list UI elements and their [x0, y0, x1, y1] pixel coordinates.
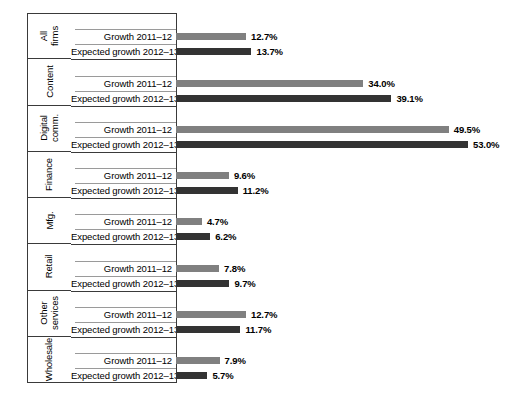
- category-group: Growth 2011–129.6%Expected growth 2012–1…: [71, 152, 515, 198]
- category-label-cell: Finance: [27, 152, 71, 198]
- category-label: Otherservices: [38, 296, 60, 330]
- bar: [176, 33, 246, 40]
- row-label: Growth 2011–12: [71, 170, 176, 181]
- chart-row: Growth 2011–1212.7%: [71, 29, 515, 44]
- bar: [176, 372, 207, 379]
- category-label-line1: Other: [38, 301, 49, 324]
- bar: [176, 187, 238, 194]
- bar-chart: AllfirmsContentDigitalcomm.FinanceMfg.Re…: [0, 0, 515, 398]
- category-axis-column: AllfirmsContentDigitalcomm.FinanceMfg.Re…: [27, 13, 71, 383]
- category-label-line1: Finance: [43, 158, 54, 191]
- category-label: Finance: [43, 158, 54, 191]
- row-label: Expected growth 2012–13: [71, 278, 176, 289]
- bar-value-label: 7.9%: [225, 355, 246, 366]
- category-label-line1: All: [38, 30, 49, 40]
- group-spacer: [71, 337, 515, 353]
- chart-row: Growth 2011–1212.7%: [71, 307, 515, 322]
- row-divider: [75, 214, 176, 215]
- row-divider: [75, 91, 176, 92]
- category-label: Content: [43, 66, 54, 99]
- bar: [176, 48, 251, 55]
- bar-value-label: 13.7%: [256, 46, 282, 57]
- row-label: Expected growth 2012–13: [71, 93, 176, 104]
- category-label-line1: Content: [43, 66, 54, 99]
- row-label: Growth 2011–12: [71, 355, 176, 366]
- bar-value-label: 7.8%: [224, 263, 245, 274]
- category-group: Growth 2011–127.8%Expected growth 2012–1…: [71, 244, 515, 290]
- chart-row: Expected growth 2012–135.7%: [71, 368, 515, 383]
- category-group: Growth 2011–1212.7%Expected growth 2012–…: [71, 13, 515, 59]
- category-label-cell: Mfg.: [27, 198, 71, 244]
- category-label: Retail: [43, 255, 54, 279]
- chart-row: Expected growth 2012–136.2%: [71, 229, 515, 244]
- category-label-line2: comm.: [49, 114, 60, 142]
- bar-container: 5.7%: [176, 368, 515, 383]
- row-divider: [75, 276, 176, 277]
- bar-container: 7.8%: [176, 261, 515, 276]
- bar-value-label: 53.0%: [473, 139, 499, 150]
- row-divider: [75, 137, 176, 138]
- row-divider: [75, 307, 176, 308]
- bar: [176, 172, 229, 179]
- category-label-line1: Mfg.: [43, 212, 54, 230]
- chart-row: Expected growth 2012–1311.7%: [71, 322, 515, 337]
- group-spacer: [71, 13, 515, 29]
- category-group: Growth 2011–1212.7%Expected growth 2012–…: [71, 291, 515, 337]
- chart-row: Expected growth 2012–1311.2%: [71, 183, 515, 198]
- group-spacer: [71, 152, 515, 168]
- row-divider: [75, 168, 176, 169]
- row-divider: [75, 76, 176, 77]
- row-label: Expected growth 2012–13: [71, 324, 176, 335]
- bar-value-label: 11.7%: [245, 324, 271, 335]
- category-label: Mfg.: [43, 212, 54, 230]
- group-spacer: [71, 59, 515, 75]
- category-label-line1: Digital: [38, 115, 49, 141]
- bar-container: 34.0%: [176, 76, 515, 91]
- category-label-cell: Digitalcomm.: [27, 106, 71, 152]
- bar: [176, 218, 202, 225]
- row-label: Growth 2011–12: [71, 216, 176, 227]
- row-divider: [75, 122, 176, 123]
- bar: [176, 280, 229, 287]
- row-label: Growth 2011–12: [71, 309, 176, 320]
- row-divider: [75, 183, 176, 184]
- bar-value-label: 4.7%: [207, 216, 228, 227]
- chart-row: Expected growth 2012–139.7%: [71, 276, 515, 291]
- bar-value-label: 11.2%: [243, 185, 269, 196]
- bar-container: 11.2%: [176, 183, 515, 198]
- chart-row: Growth 2011–124.7%: [71, 214, 515, 229]
- chart-row: Expected growth 2012–1353.0%: [71, 137, 515, 152]
- category-label-line1: Wholesale: [44, 338, 55, 381]
- row-divider: [75, 322, 176, 323]
- bar: [176, 80, 363, 87]
- chart-row: Expected growth 2012–1313.7%: [71, 44, 515, 59]
- category-label-cell: Wholesale: [27, 337, 71, 383]
- row-divider: [75, 368, 176, 369]
- bar-container: 9.6%: [176, 168, 515, 183]
- bar-value-label: 12.7%: [251, 31, 277, 42]
- row-divider: [75, 29, 176, 30]
- bar: [176, 233, 210, 240]
- row-label: Expected growth 2012–13: [71, 46, 176, 57]
- chart-row: Growth 2011–1234.0%: [71, 76, 515, 91]
- row-label: Expected growth 2012–13: [71, 370, 176, 381]
- row-label: Expected growth 2012–13: [71, 139, 176, 150]
- bar-container: 12.7%: [176, 307, 515, 322]
- row-label: Growth 2011–12: [71, 124, 176, 135]
- category-label-cell: Retail: [27, 244, 71, 290]
- category-label: Digitalcomm.: [38, 114, 60, 142]
- row-divider: [75, 261, 176, 262]
- row-divider: [75, 44, 176, 45]
- row-label: Expected growth 2012–13: [71, 185, 176, 196]
- bar-container: 49.5%: [176, 122, 515, 137]
- bar-container: 11.7%: [176, 322, 515, 337]
- bar-value-label: 9.7%: [234, 278, 255, 289]
- bar-container: 6.2%: [176, 229, 515, 244]
- bar-container: 39.1%: [176, 91, 515, 106]
- bar-value-label: 39.1%: [396, 93, 422, 104]
- chart-row: Growth 2011–127.9%: [71, 353, 515, 368]
- category-group: Growth 2011–124.7%Expected growth 2012–1…: [71, 198, 515, 244]
- bar: [176, 126, 449, 133]
- chart-row: Growth 2011–127.8%: [71, 261, 515, 276]
- row-label: Growth 2011–12: [71, 31, 176, 42]
